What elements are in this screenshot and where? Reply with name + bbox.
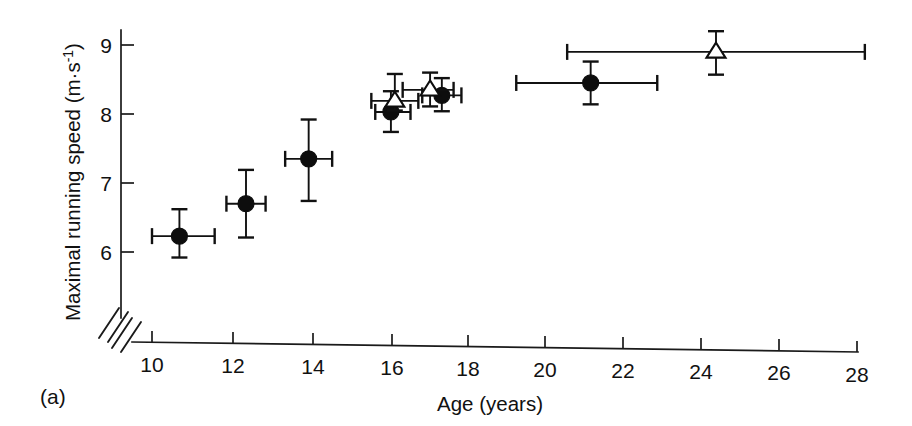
scatter-chart: Maximal running speed (m·s-1) 9 8 7 6 <box>0 0 912 426</box>
x-tick-label-28: 28 <box>845 363 868 386</box>
x-tick-label-10: 10 <box>140 353 163 376</box>
svg-text:Maximal running speed (m·s-1): Maximal running speed (m·s-1) <box>60 43 84 321</box>
data-points-layer <box>152 31 865 257</box>
x-tick-label-18: 18 <box>456 357 479 380</box>
data-point-circle <box>516 62 657 105</box>
y-tick-label-7: 7 <box>100 172 112 195</box>
x-tick-label-16: 16 <box>380 356 403 379</box>
filled-circle-marker <box>301 151 317 167</box>
panel-label: (a) <box>40 385 66 408</box>
figure-panel: Maximal running speed (m·s-1) 9 8 7 6 <box>0 0 912 426</box>
axis-break-icon <box>99 308 141 352</box>
y-tick-label-9: 9 <box>100 34 112 57</box>
data-point-triangle <box>567 31 865 74</box>
filled-circle-marker <box>171 228 187 244</box>
y-axis-title-exponent: -1 <box>60 50 76 63</box>
y-axis-ticks: 9 8 7 6 <box>100 34 134 264</box>
filled-circle-marker <box>583 75 599 91</box>
y-axis-title-close: ) <box>61 43 84 50</box>
y-tick-label-8: 8 <box>100 103 112 126</box>
x-axis-title: Age (years) <box>437 392 543 415</box>
x-tick-label-22: 22 <box>611 359 634 382</box>
x-axis-ticks: 10 12 14 16 18 20 22 24 26 28 <box>140 331 868 386</box>
data-point-circle <box>226 170 265 238</box>
y-axis-title-text: Maximal running speed (m·s <box>61 62 84 321</box>
data-point-circle <box>285 120 332 201</box>
filled-circle-marker <box>238 196 254 212</box>
x-tick-label-26: 26 <box>767 361 790 384</box>
open-triangle-marker <box>707 43 726 58</box>
y-tick-label-6: 6 <box>100 241 112 264</box>
x-tick-label-14: 14 <box>301 355 325 378</box>
x-tick-label-24: 24 <box>689 360 713 383</box>
x-tick-label-12: 12 <box>221 354 244 377</box>
y-axis-title: Maximal running speed (m·s-1) <box>60 43 84 321</box>
data-point-circle <box>152 209 215 257</box>
x-axis-line <box>132 342 858 352</box>
x-tick-label-20: 20 <box>533 358 556 381</box>
